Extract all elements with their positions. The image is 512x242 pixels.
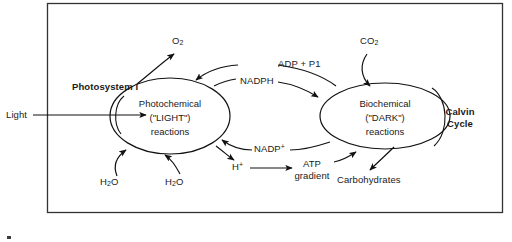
light-reactions-label: Photochemical ("LIGHT") reactions — [110, 97, 230, 138]
proton-text: H — [232, 161, 239, 172]
proton-label: H+ — [232, 161, 243, 173]
light-reactions-line-3: reactions — [110, 125, 230, 139]
light-reactions-line-1: Photochemical — [110, 97, 230, 111]
oxygen-formula-text: O — [172, 35, 180, 46]
dark-reactions-line-1: Biochemical — [325, 97, 445, 111]
nadp-plus-superscript: + — [281, 143, 285, 150]
light-label: Light — [6, 109, 27, 121]
light-reactions-line-2: ("LIGHT") — [110, 111, 230, 125]
water-left-label: H2O — [100, 176, 118, 189]
water-right-text-2: O — [176, 176, 184, 187]
carbon-dioxide-label: CO2 — [360, 35, 378, 48]
oxygen-label: O2 — [172, 35, 184, 48]
calvin-cycle-label: Calvin Cycle — [438, 106, 482, 130]
nadph-label: NADPH — [240, 75, 274, 87]
dark-reactions-label: Biochemical ("DARK") reactions — [325, 97, 445, 138]
calvin-cycle-line-1: Calvin — [438, 106, 482, 118]
carbohydrates-label: Carbohydrates — [337, 174, 401, 186]
carbon-dioxide-subscript: 2 — [374, 39, 378, 46]
proton-superscript: + — [239, 161, 243, 168]
water-right-label: H2O — [165, 176, 183, 189]
dark-reactions-line-2: ("DARK") — [325, 111, 445, 125]
oxygen-subscript: 2 — [180, 39, 184, 46]
dark-reactions-line-3: reactions — [325, 125, 445, 139]
atp-gradient-line-1: ATP — [288, 158, 336, 170]
nadp-plus-label: NADP+ — [254, 143, 285, 155]
water-right-text: H — [165, 176, 172, 187]
water-left-text-2: O — [111, 176, 119, 187]
photosystem-label: Photosystem I — [72, 81, 138, 93]
photosynthesis-diagram: Light Photosystem I O2 CO2 Photochemical… — [0, 0, 512, 242]
carbon-dioxide-formula-text: CO — [360, 35, 374, 46]
adp-pi-label: ADP + P1 — [278, 58, 321, 70]
calvin-cycle-line-2: Cycle — [438, 118, 482, 130]
nadp-plus-text: NADP — [254, 143, 281, 154]
atp-gradient-line-2: gradient — [288, 170, 336, 182]
scan-artifact-speck — [7, 236, 11, 239]
water-left-text: H — [100, 176, 107, 187]
atp-gradient-label: ATP gradient — [288, 158, 336, 182]
